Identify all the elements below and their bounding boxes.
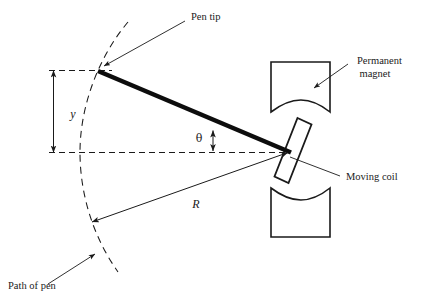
moving-coil-leader-line — [290, 157, 340, 176]
radius-dimension-label: R — [191, 197, 200, 211]
permanent-magnet-bottom — [271, 188, 330, 237]
mechanism-diagram: y θ R Pen tip Permanent magnet Moving co… — [0, 0, 421, 301]
diagram-canvas: y θ R Pen tip Permanent magnet Moving co… — [0, 0, 421, 301]
permanent-magnet-label-line2: magnet — [360, 68, 391, 79]
theta-angle-label: θ — [196, 132, 203, 145]
pen-tip-label: Pen tip — [191, 11, 220, 22]
y-dimension-label: y — [69, 107, 76, 121]
pen-path-arc — [80, 22, 128, 272]
pen-tip-leader-line — [104, 21, 185, 66]
moving-coil-label: Moving coil — [346, 171, 398, 182]
permanent-magnet-label-line1: Permanent — [357, 55, 402, 66]
pen-arm — [98, 71, 291, 153]
permanent-magnet-top — [271, 62, 330, 112]
radius-dimension-arrow — [92, 153, 288, 223]
moving-coil — [275, 118, 312, 183]
path-of-pen-label: Path of pen — [8, 280, 57, 291]
